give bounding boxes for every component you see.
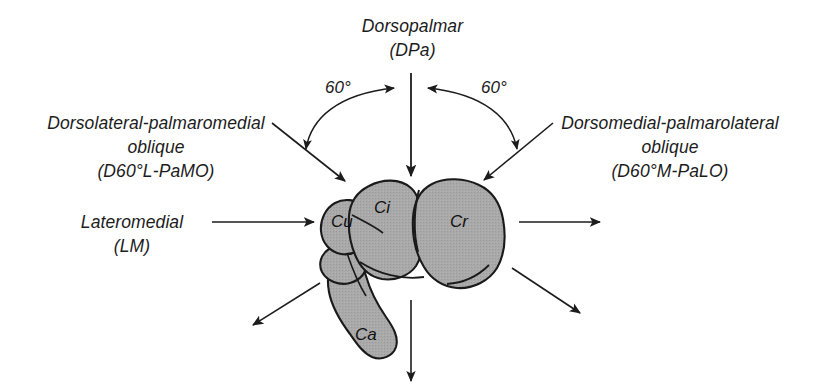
bone-shape-cr xyxy=(413,179,505,288)
bone-label-cu: Cu xyxy=(331,212,353,232)
label-dorsopalmar-name: Dorsopalmar xyxy=(330,14,495,38)
carpus-bone-group xyxy=(320,179,504,358)
diagram-canvas: Dorsopalmar (DPa) 60° 60° Dorsolateral-p… xyxy=(0,0,821,391)
arrow-exit-lower-left xyxy=(253,283,320,325)
label-dorsopalmar-abbrev: (DPa) xyxy=(330,38,495,62)
label-dmplo-abbrev: (D60°M-PaLO) xyxy=(536,159,804,183)
label-lateromedial-name: Lateromedial xyxy=(62,210,202,234)
angle-label-left: 60° xyxy=(325,78,351,98)
label-dlpmo-abbrev: (D60°L-PaMO) xyxy=(22,159,290,183)
bone-label-ca: Ca xyxy=(355,325,377,345)
label-lateromedial-abbrev: (LM) xyxy=(62,234,202,258)
label-dlpmo-qualifier: oblique xyxy=(22,135,290,159)
label-dorsomedial-palmarolateral-oblique: Dorsomedial-palmarolateral oblique (D60°… xyxy=(536,111,804,183)
bone-label-ci: Ci xyxy=(374,198,390,218)
label-lateromedial: Lateromedial (LM) xyxy=(62,210,202,258)
label-dlpmo-name: Dorsolateral-palmaromedial xyxy=(22,111,290,135)
bone-label-cr: Cr xyxy=(450,212,468,232)
label-dorsolateral-palmaromedial-oblique: Dorsolateral-palmaromedial oblique (D60°… xyxy=(22,111,290,183)
angle-label-right: 60° xyxy=(481,78,507,98)
label-dmplo-qualifier: oblique xyxy=(536,135,804,159)
label-dmplo-name: Dorsomedial-palmarolateral xyxy=(536,111,804,135)
arrow-exit-lower-right xyxy=(512,268,580,313)
label-dorsopalmar: Dorsopalmar (DPa) xyxy=(330,14,495,62)
